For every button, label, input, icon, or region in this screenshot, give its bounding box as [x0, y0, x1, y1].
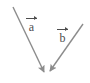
vector-b-label: b	[57, 27, 68, 44]
vector-a-overline-arrow-icon	[26, 16, 37, 21]
vector-a-label-text: a	[26, 21, 37, 33]
vector-a-label: a	[26, 16, 37, 33]
vector-b-label-text: b	[57, 32, 68, 44]
vector-canvas	[0, 0, 90, 83]
vector-diagram: a b	[0, 0, 90, 83]
vector-b-overline-arrow-icon	[57, 27, 68, 32]
